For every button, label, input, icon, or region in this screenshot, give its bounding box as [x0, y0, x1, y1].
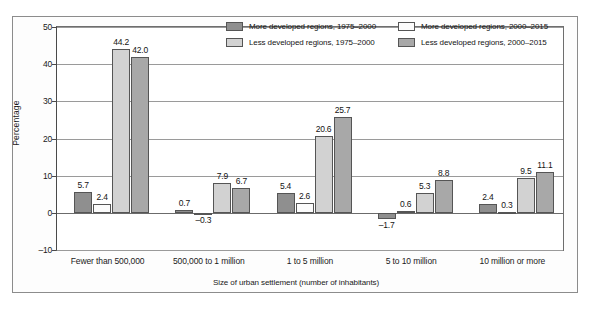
legend-swatch	[226, 22, 243, 31]
y-axis-tick-mark	[52, 139, 56, 140]
bar-value-label: 5.7	[67, 180, 99, 190]
y-axis-tick-mark	[52, 213, 56, 214]
legend-label: More developed regions, 1975–2000	[249, 22, 376, 31]
bar	[498, 212, 516, 214]
bar	[416, 193, 434, 213]
bar-value-label: 5.4	[270, 181, 302, 191]
figure: –1001020304050 Percentage 5.72.444.242.0…	[0, 0, 592, 314]
bar-value-label: 6.7	[225, 176, 257, 186]
plot-area: 5.72.444.242.00.7–0.37.96.75.42.620.625.…	[57, 27, 563, 250]
legend-item: Less developed regions, 1975–2000	[226, 38, 375, 47]
bar	[334, 117, 352, 213]
legend-swatch	[226, 38, 243, 47]
y-axis-tick-mark	[52, 27, 56, 28]
y-axis-tick-label: 40	[24, 59, 52, 69]
legend-item: Less developed regions, 2000–2015	[398, 38, 547, 47]
y-axis-tick-label: 50	[24, 22, 52, 32]
bar	[435, 180, 453, 213]
bar-value-label: 25.7	[327, 105, 359, 115]
y-axis-tick-mark	[52, 250, 56, 251]
y-axis-tick-label: 10	[24, 171, 52, 181]
y-axis-tick-label: 20	[24, 134, 52, 144]
bar	[112, 49, 130, 213]
bar	[536, 172, 554, 213]
legend-item: More developed regions, 2000–2015	[398, 22, 548, 31]
gridline	[57, 213, 563, 214]
gridline	[57, 250, 563, 251]
bar-value-label: 11.1	[529, 160, 561, 170]
y-axis-tick-label: –10	[24, 245, 52, 255]
bar	[213, 183, 231, 212]
x-axis-tick-label: 10 million or more	[444, 256, 581, 266]
y-axis-title: Percentage	[11, 83, 21, 163]
bar	[517, 178, 535, 213]
bar-value-label: 8.8	[428, 168, 460, 178]
y-axis-tick-mark	[52, 64, 56, 65]
legend-label: Less developed regions, 2000–2015	[421, 38, 547, 47]
legend-label: More developed regions, 2000–2015	[421, 22, 548, 31]
legend-swatch	[398, 22, 415, 31]
bar	[296, 203, 314, 213]
bar	[175, 210, 193, 213]
y-axis-tick-labels: –1001020304050	[20, 27, 52, 250]
bar-value-label: 42.0	[124, 45, 156, 55]
legend-swatch	[398, 38, 415, 47]
bar-value-label: –0.3	[187, 215, 219, 225]
bar-value-label: –1.7	[371, 220, 403, 230]
y-axis-tick-label: 0	[24, 208, 52, 218]
bar	[232, 188, 250, 213]
chart-legend: More developed regions, 1975–2000Less de…	[226, 22, 556, 56]
bar-value-label: 0.7	[168, 198, 200, 208]
bar	[93, 204, 111, 213]
bar	[397, 211, 415, 213]
legend-item: More developed regions, 1975–2000	[226, 22, 376, 31]
legend-label: Less developed regions, 1975–2000	[249, 38, 375, 47]
y-axis-tick-label: 30	[24, 96, 52, 106]
y-axis-tick-mark	[52, 101, 56, 102]
bar	[315, 136, 333, 213]
bar	[131, 57, 149, 213]
y-axis-tick-mark	[52, 176, 56, 177]
bar	[378, 213, 396, 219]
x-axis-title: Size of urban settlement (number of inha…	[0, 278, 592, 287]
